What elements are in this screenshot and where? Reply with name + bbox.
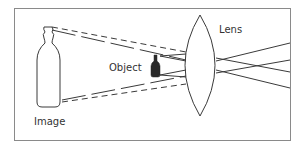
lens-label: Lens: [219, 25, 242, 35]
refracted-rays: [216, 43, 290, 88]
image-label: Image: [34, 117, 65, 127]
object-label: Object: [109, 63, 142, 73]
image-bottle-icon: [37, 27, 60, 107]
object-bottle-icon: [151, 55, 160, 77]
lens-shape: [185, 15, 215, 116]
diagram-canvas: [0, 0, 305, 150]
lens-diagram: Lens Object Image: [0, 0, 305, 150]
